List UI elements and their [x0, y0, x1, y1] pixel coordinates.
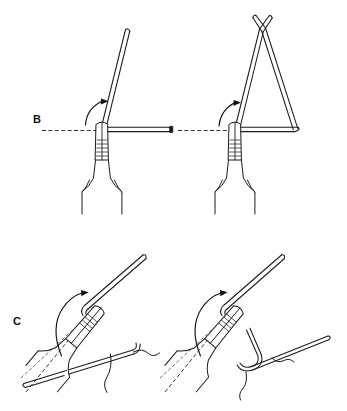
panel-label-c: C — [13, 315, 21, 327]
wire-bending-figure: B — [0, 0, 347, 411]
panel-label-b: B — [33, 113, 41, 125]
figure-illustration: B — [0, 0, 347, 411]
